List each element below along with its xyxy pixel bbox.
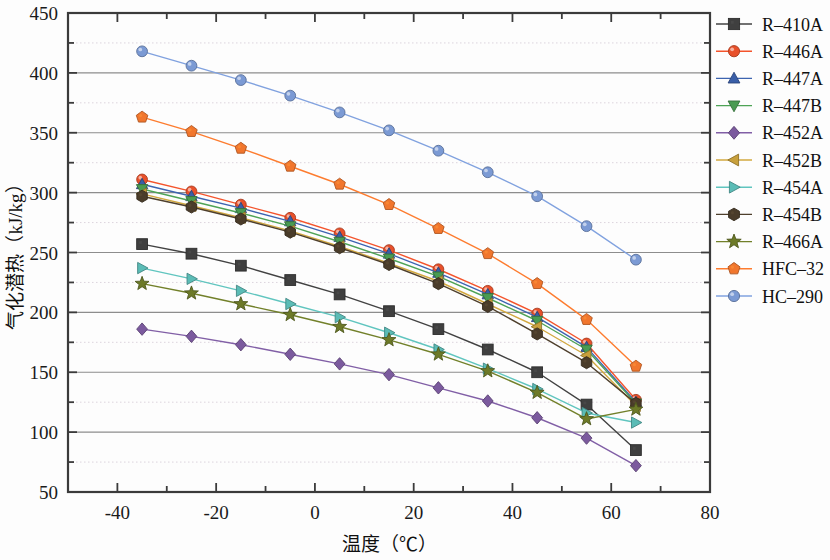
legend-label: R–454A <box>762 178 823 198</box>
legend-marker <box>729 208 740 221</box>
data-point <box>334 178 346 189</box>
series-line <box>142 244 636 450</box>
data-point <box>235 142 247 153</box>
data-point <box>433 223 445 234</box>
legend-label: R–452B <box>762 151 822 171</box>
legend-label: R–466A <box>762 232 823 252</box>
legend-marker <box>728 126 739 139</box>
data-point <box>235 260 246 271</box>
legend-marker <box>727 234 741 248</box>
data-point <box>285 348 296 360</box>
data-point <box>631 459 642 471</box>
legend-marker <box>728 263 740 274</box>
legend-item-r-447a[interactable]: R–447A <box>716 69 823 89</box>
legend-item-hfc-32[interactable]: HFC–32 <box>716 259 824 279</box>
x-tick-label: 40 <box>503 502 522 523</box>
data-point <box>186 201 196 213</box>
data-point <box>186 248 197 259</box>
data-point <box>236 213 246 225</box>
data-point <box>236 285 246 296</box>
data-point <box>384 125 395 136</box>
data-point <box>186 60 197 71</box>
data-point <box>384 306 395 317</box>
legend-label: R–454B <box>762 205 822 225</box>
legend-marker <box>728 290 739 301</box>
data-point <box>482 167 493 178</box>
data-point <box>631 417 641 428</box>
data-point <box>531 278 543 289</box>
data-point <box>235 338 246 350</box>
data-point <box>581 221 592 232</box>
x-tick-label: 60 <box>602 502 621 523</box>
data-point <box>235 75 246 86</box>
data-point <box>284 160 296 171</box>
data-point <box>286 298 296 309</box>
data-point <box>334 242 344 254</box>
legend-label: HFC–32 <box>762 259 824 279</box>
y-axis-title: 气化潜热（kJ/kg） <box>5 174 26 329</box>
series-line <box>142 268 636 422</box>
data-point <box>631 254 642 265</box>
y-tick-label: 350 <box>30 123 59 144</box>
legend-label: R–447A <box>762 69 823 89</box>
data-point <box>334 358 345 370</box>
x-axis-title: 温度（℃） <box>342 534 437 555</box>
legend-item-r-447b[interactable]: R–447B <box>716 96 822 116</box>
legend-item-r-410a[interactable]: R–410A <box>716 15 823 35</box>
legend-label: R–452A <box>762 123 823 143</box>
data-point <box>482 344 493 355</box>
legend-marker <box>729 181 740 193</box>
data-point <box>136 111 148 122</box>
legend-marker <box>728 18 739 29</box>
series-r-452a <box>137 323 642 472</box>
data-point <box>138 262 148 273</box>
data-point <box>285 90 296 101</box>
data-point <box>185 286 199 299</box>
y-tick-label: 400 <box>30 63 59 84</box>
data-point <box>137 46 148 57</box>
legend-label: R–447B <box>762 96 822 116</box>
legend-item-r-452a[interactable]: R–452A <box>716 123 823 143</box>
y-tick-label: 200 <box>30 302 59 323</box>
y-tick-label: 50 <box>39 482 58 503</box>
data-point <box>285 226 295 238</box>
y-tick-label: 250 <box>30 243 59 264</box>
series-r-454a <box>138 262 642 428</box>
chart-legend: R–410AR–446AR–447AR–447BR–452AR–452BR–45… <box>716 15 824 307</box>
y-tick-label: 300 <box>30 183 59 204</box>
data-point <box>334 107 345 118</box>
chart-container: 50100150200250300350400450-40-2002040608… <box>0 0 830 560</box>
legend-item-r-454b[interactable]: R–454B <box>716 205 822 225</box>
y-tick-label: 100 <box>30 422 59 443</box>
legend-marker <box>728 154 739 166</box>
data-point <box>581 432 592 444</box>
series-line <box>142 51 636 259</box>
x-tick-label: -20 <box>203 502 228 523</box>
data-point <box>433 278 443 290</box>
series-hc-290 <box>137 46 642 265</box>
data-point <box>186 330 197 342</box>
data-point <box>482 248 494 259</box>
data-point <box>532 367 543 378</box>
data-point <box>137 239 148 250</box>
legend-marker <box>728 72 740 83</box>
data-point <box>285 275 296 286</box>
data-point <box>137 323 148 335</box>
data-point <box>384 368 395 380</box>
legend-label: R–446A <box>762 42 823 62</box>
x-tick-label: 20 <box>404 502 423 523</box>
legend-item-r-454a[interactable]: R–454A <box>716 178 823 198</box>
legend-item-r-446a[interactable]: R–446A <box>716 42 823 62</box>
data-point <box>631 445 642 456</box>
legend-marker <box>728 101 740 112</box>
legend-item-r-452b[interactable]: R–452B <box>716 151 822 171</box>
data-point <box>433 382 444 394</box>
y-tick-label: 150 <box>30 362 59 383</box>
legend-marker <box>728 46 739 57</box>
data-point <box>581 357 591 369</box>
legend-item-r-466a[interactable]: R–466A <box>716 232 823 252</box>
data-point <box>433 145 444 156</box>
data-point <box>532 412 543 424</box>
legend-item-hc-290[interactable]: HC–290 <box>716 287 823 307</box>
data-point <box>532 191 543 202</box>
